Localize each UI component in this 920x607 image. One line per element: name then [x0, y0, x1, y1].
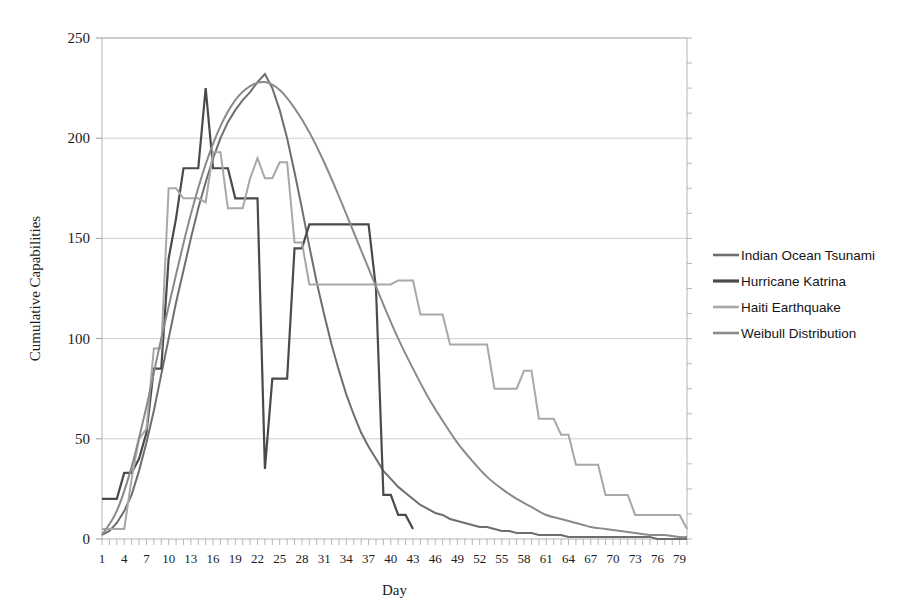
x-tick-label: 67: [584, 551, 598, 566]
x-tick-label: 10: [162, 551, 175, 566]
legend-label-0[interactable]: Indian Ocean Tsunami: [741, 248, 875, 263]
y-tick-label: 150: [68, 230, 91, 246]
y-tick-label: 0: [83, 531, 91, 547]
x-tick-label: 58: [518, 551, 531, 566]
x-tick-label: 37: [362, 551, 376, 566]
y-tick-label: 100: [68, 331, 91, 347]
x-tick-label: 1: [99, 551, 106, 566]
x-tick-label: 16: [207, 551, 221, 566]
x-tick-label: 43: [407, 551, 420, 566]
x-tick-label: 19: [229, 551, 242, 566]
x-tick-label: 61: [540, 551, 553, 566]
x-tick-label: 31: [318, 551, 331, 566]
series-line-haiti-earthquake: [102, 152, 687, 529]
x-tick-label: 73: [629, 551, 642, 566]
x-tick-label: 46: [429, 551, 443, 566]
y-axis-title: Cumulative Capabilities: [27, 216, 43, 362]
x-tick-label: 55: [495, 551, 508, 566]
y-tick-label: 200: [68, 130, 91, 146]
chart-container: 0501001502002501471013161922252831343740…: [0, 0, 920, 607]
x-tick-label: 70: [606, 551, 619, 566]
x-tick-label: 34: [340, 551, 354, 566]
legend-label-2[interactable]: Haiti Earthquake: [741, 300, 841, 315]
x-tick-label: 25: [273, 551, 286, 566]
x-tick-label: 79: [673, 551, 686, 566]
x-tick-label: 28: [295, 551, 308, 566]
x-tick-label: 4: [121, 551, 128, 566]
x-tick-label: 40: [384, 551, 397, 566]
y-tick-label: 50: [75, 431, 90, 447]
x-tick-label: 7: [143, 551, 150, 566]
line-chart: 0501001502002501471013161922252831343740…: [0, 0, 920, 607]
x-tick-label: 52: [473, 551, 486, 566]
y-tick-label: 250: [68, 30, 91, 46]
legend-label-3[interactable]: Weibull Distribution: [741, 326, 856, 341]
x-tick-label: 49: [451, 551, 464, 566]
x-axis-title: Day: [382, 582, 407, 598]
x-tick-label: 76: [651, 551, 665, 566]
x-tick-label: 64: [562, 551, 576, 566]
x-tick-label: 13: [184, 551, 197, 566]
x-tick-label: 22: [251, 551, 264, 566]
legend-label-1[interactable]: Hurricane Katrina: [741, 274, 847, 289]
series-line-hurricane-katrina: [102, 88, 413, 529]
